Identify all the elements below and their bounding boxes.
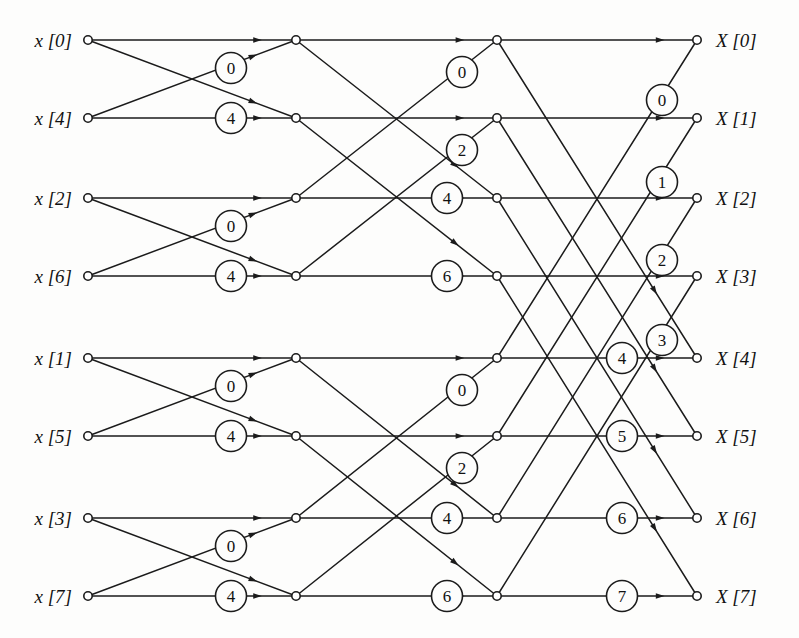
arrowhead-straight — [656, 593, 665, 599]
input-node-5 — [84, 432, 92, 440]
stage1-node-0 — [292, 36, 300, 44]
arrowhead-cross — [650, 445, 657, 454]
twiddle-coefficient-0: 0 — [216, 211, 247, 242]
arrowhead-straight — [253, 115, 262, 121]
stage1-node-7 — [292, 592, 300, 600]
stage2-node-5 — [493, 432, 501, 440]
arrowhead-straight — [253, 515, 262, 521]
coefficient-value: 0 — [227, 217, 236, 236]
twiddle-coefficient-layer: 040404040246024601234567 — [216, 53, 678, 612]
twiddle-coefficient-0: 0 — [447, 57, 478, 88]
coefficient-value: 2 — [458, 141, 467, 160]
stage2-node-6 — [493, 514, 501, 522]
input-label-x1: x [1] — [34, 348, 72, 369]
output-node-3 — [693, 272, 701, 280]
coefficient-value: 1 — [658, 173, 667, 192]
arrowhead-straight — [253, 355, 262, 361]
input-node-2 — [84, 194, 92, 202]
twiddle-coefficient-4: 4 — [216, 261, 247, 292]
arrowhead-cross — [248, 256, 257, 262]
output-label-X6: X [6] — [715, 508, 757, 529]
arrowhead-straight — [456, 433, 465, 439]
arrowhead-cross — [650, 286, 657, 295]
arrowhead-straight — [656, 433, 665, 439]
output-label-X3: X [3] — [715, 266, 757, 287]
output-node-7 — [693, 592, 701, 600]
arrowhead-cross — [650, 523, 657, 532]
coefficient-value: 0 — [658, 91, 667, 110]
twiddle-coefficient-6: 6 — [432, 261, 463, 292]
coefficient-value: 4 — [443, 189, 452, 208]
stage2-node-7 — [493, 592, 501, 600]
input-label-x3: x [3] — [34, 508, 72, 529]
twiddle-coefficient-6: 6 — [432, 581, 463, 612]
twiddle-coefficient-0: 0 — [447, 375, 478, 406]
twiddle-coefficient-2: 2 — [447, 453, 478, 484]
twiddle-coefficient-2: 2 — [647, 245, 678, 276]
output-label-X4: X [4] — [715, 348, 757, 369]
output-label-X2: X [2] — [715, 188, 757, 209]
coefficient-value: 2 — [458, 459, 467, 478]
output-node-0 — [693, 36, 701, 44]
output-node-1 — [693, 114, 701, 122]
stage2-node-4 — [493, 354, 501, 362]
arrowhead-cross — [248, 416, 257, 422]
twiddle-coefficient-4: 4 — [432, 183, 463, 214]
arrowhead-straight — [253, 37, 262, 43]
twiddle-coefficient-4: 4 — [216, 421, 247, 452]
arrowhead-cross — [248, 533, 257, 539]
twiddle-coefficient-0: 0 — [647, 85, 678, 116]
input-label-x7: x [7] — [34, 586, 72, 607]
arrowhead-cross — [650, 364, 657, 373]
twiddle-coefficient-0: 0 — [216, 53, 247, 84]
output-label-X5: X [5] — [715, 426, 757, 447]
arrowhead-straight — [253, 433, 262, 439]
output-node-4 — [693, 354, 701, 362]
arrowhead-straight — [253, 593, 262, 599]
coefficient-value: 0 — [458, 63, 467, 82]
coefficient-value: 6 — [443, 267, 452, 286]
arrowhead-straight — [456, 37, 465, 43]
stage1-node-5 — [292, 432, 300, 440]
output-node-5 — [693, 432, 701, 440]
twiddle-coefficient-4: 4 — [607, 343, 638, 374]
output-label-X1: X [1] — [715, 108, 757, 129]
stage2-node-1 — [493, 114, 501, 122]
input-label-x5: x [5] — [34, 426, 72, 447]
twiddle-coefficient-1: 1 — [647, 167, 678, 198]
fft-flowgraph-figure: 040404040246024601234567 x [0]x [4]x [2]… — [0, 0, 799, 638]
stage1-node-1 — [292, 114, 300, 122]
arrowhead-straight — [456, 355, 465, 361]
output-node-2 — [693, 194, 701, 202]
twiddle-coefficient-6: 6 — [607, 503, 638, 534]
twiddle-coefficient-2: 2 — [447, 135, 478, 166]
input-label-x4: x [4] — [34, 108, 72, 129]
input-node-6 — [84, 514, 92, 522]
stage1-node-4 — [292, 354, 300, 362]
coefficient-value: 4 — [618, 349, 627, 368]
coefficient-value: 3 — [658, 331, 667, 350]
twiddle-coefficient-3: 3 — [647, 325, 678, 356]
coefficient-value: 0 — [227, 537, 236, 556]
fft-signal-flow-graph: 040404040246024601234567 x [0]x [4]x [2]… — [0, 0, 799, 638]
arrowhead-straight — [656, 37, 665, 43]
stage2-node-2 — [493, 194, 501, 202]
output-label-X0: X [0] — [715, 30, 757, 51]
arrowhead-straight — [253, 273, 262, 279]
coefficient-value: 2 — [658, 251, 667, 270]
twiddle-coefficient-4: 4 — [216, 103, 247, 134]
input-label-x6: x [6] — [34, 266, 72, 287]
arrowhead-straight — [656, 515, 665, 521]
twiddle-coefficient-7: 7 — [607, 581, 638, 612]
input-node-0 — [84, 36, 92, 44]
coefficient-value: 6 — [443, 587, 452, 606]
arrowhead-cross — [248, 213, 257, 219]
input-label-x2: x [2] — [34, 188, 72, 209]
coefficient-value: 5 — [618, 427, 627, 446]
twiddle-coefficient-0: 0 — [216, 531, 247, 562]
arrowhead-cross — [248, 576, 257, 582]
output-node-6 — [693, 514, 701, 522]
arrowhead-cross — [248, 55, 257, 61]
coefficient-value: 0 — [458, 381, 467, 400]
coefficient-value: 4 — [227, 587, 236, 606]
